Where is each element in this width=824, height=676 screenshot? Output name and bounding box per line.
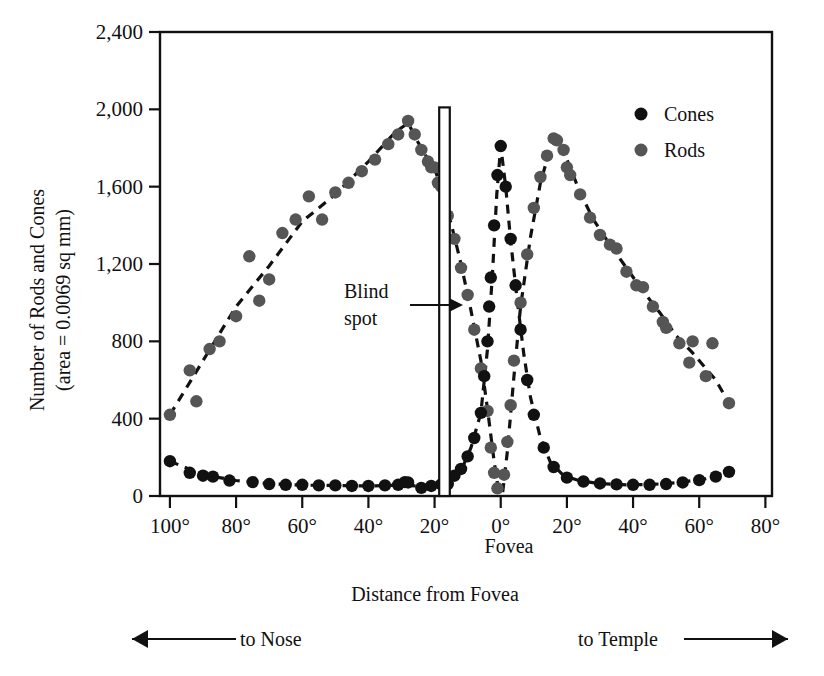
x-axis-title: Distance from Fovea — [351, 583, 519, 605]
data-point-rods — [230, 310, 242, 322]
data-point-cones — [547, 461, 559, 473]
data-point-cones — [577, 475, 589, 487]
blind-spot-label-line1: Blind — [344, 280, 388, 302]
x-tick-label: 100° — [150, 514, 190, 538]
blind-spot-arrow — [410, 298, 463, 312]
data-point-rods — [289, 213, 301, 225]
data-point-cones — [509, 279, 521, 291]
data-point-cones — [594, 477, 606, 489]
data-point-rods — [382, 138, 394, 150]
data-point-cones — [610, 478, 622, 490]
y-tick-label: 2,000 — [96, 97, 143, 121]
data-point-rods — [485, 441, 497, 453]
data-point-rods — [402, 115, 414, 127]
x-tick-label: 80° — [751, 514, 780, 538]
to-nose-arrow — [132, 630, 236, 648]
x-tick-label: 60° — [288, 514, 317, 538]
to-nose-label: to Nose — [240, 628, 302, 650]
data-point-cones — [402, 476, 414, 488]
x-tick-label: 40° — [354, 514, 383, 538]
data-point-cones — [504, 233, 516, 245]
data-point-rods — [253, 295, 265, 307]
data-point-cones — [379, 479, 391, 491]
data-point-cones — [461, 450, 473, 462]
data-point-cones — [528, 409, 540, 421]
data-point-rods — [455, 262, 467, 274]
data-point-rods — [164, 409, 176, 421]
data-point-rods — [356, 165, 368, 177]
data-point-rods — [574, 188, 586, 200]
to-temple-arrow — [684, 630, 788, 648]
data-point-cones — [346, 480, 358, 492]
fovea-label: Fovea — [485, 535, 534, 557]
data-point-rods — [504, 399, 516, 411]
data-point-cones — [488, 219, 500, 231]
data-point-rods — [620, 266, 632, 278]
data-point-cones — [660, 478, 672, 490]
data-point-rods — [498, 469, 510, 481]
data-point-cones — [468, 432, 480, 444]
data-point-cones — [478, 370, 490, 382]
data-point-rods — [468, 324, 480, 336]
data-point-cones — [455, 463, 467, 475]
x-axis-tick-labels: 100°80°60°40°20°0°20°40°60°80° — [150, 514, 780, 538]
data-point-rods — [534, 171, 546, 183]
data-point-cones — [481, 335, 493, 347]
data-point-cones — [296, 479, 308, 491]
x-tick-label: 40° — [618, 514, 647, 538]
data-point-rods — [564, 169, 576, 181]
data-point-rods — [647, 300, 659, 312]
data-point-cones — [164, 455, 176, 467]
data-point-rods — [508, 354, 520, 366]
data-point-cones — [246, 476, 258, 488]
blind-spot-label-line2: spot — [344, 307, 378, 330]
data-point-cones — [710, 470, 722, 482]
data-point-cones — [521, 374, 533, 386]
data-point-cones — [538, 441, 550, 453]
y-axis-tick-labels: 04008001,2001,6002,0002,400 — [96, 20, 143, 508]
data-point-cones — [207, 470, 219, 482]
x-tick-label: 80° — [221, 514, 250, 538]
data-point-rods — [342, 177, 354, 189]
x-axis-ticks — [170, 496, 765, 508]
data-point-cones — [223, 474, 235, 486]
data-point-rods — [700, 370, 712, 382]
data-point-rods — [594, 229, 606, 241]
y-tick-label: 1,600 — [96, 175, 143, 199]
data-point-rods — [723, 397, 735, 409]
data-point-rods — [392, 128, 404, 140]
plot-frame — [160, 32, 772, 496]
data-point-cones — [362, 480, 374, 492]
data-point-rods — [461, 289, 473, 301]
data-point-rods — [415, 144, 427, 156]
legend-label-cones: Cones — [664, 103, 714, 125]
data-point-rods — [557, 144, 569, 156]
rods-temporal-fit — [503, 138, 729, 492]
data-point-rods — [686, 335, 698, 347]
y-tick-label: 0 — [133, 484, 144, 508]
data-point-cones — [329, 479, 341, 491]
data-point-rods — [514, 296, 526, 308]
y-tick-label: 2,400 — [96, 20, 143, 44]
chart-figure: 04008001,2001,6002,0002,400 100°80°60°40… — [0, 0, 824, 676]
data-point-rods — [276, 227, 288, 239]
data-point-rods — [528, 202, 540, 214]
data-point-rods — [706, 337, 718, 349]
x-tick-label: 20° — [552, 514, 581, 538]
data-point-rods — [203, 343, 215, 355]
data-point-rods — [491, 482, 503, 494]
data-point-cones — [475, 407, 487, 419]
blind-spot-box — [439, 107, 450, 496]
data-point-rods — [190, 395, 202, 407]
data-point-cones — [485, 271, 497, 283]
data-point-rods — [683, 356, 695, 368]
data-point-cones — [693, 474, 705, 486]
data-point-cones — [627, 479, 639, 491]
data-point-cones — [184, 467, 196, 479]
data-point-cones — [514, 324, 526, 336]
y-tick-label: 1,200 — [96, 252, 143, 276]
to-temple-label: to Temple — [578, 628, 658, 651]
y-axis-title-line2: (area = 0.0069 sq mm) — [52, 209, 75, 391]
x-tick-label: 60° — [685, 514, 714, 538]
data-point-cones — [495, 140, 507, 152]
